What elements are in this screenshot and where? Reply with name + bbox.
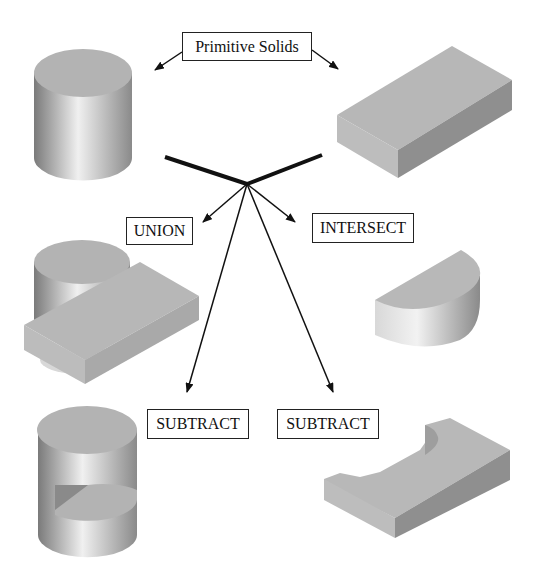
intersect-result <box>375 250 480 346</box>
subtract-label-right: SUBTRACT <box>277 409 379 439</box>
cylinder-primitive <box>34 49 132 180</box>
subtract-label-left: SUBTRACT <box>147 409 249 439</box>
union-label: UNION <box>126 217 193 245</box>
box-primitive <box>337 46 512 178</box>
intersect-label: INTERSECT <box>312 213 414 243</box>
boolean-operations-diagram <box>0 0 543 582</box>
primitive-solids-label: Primitive Solids <box>182 32 312 61</box>
union-result <box>24 240 199 384</box>
subtract-cylinder-result <box>37 406 137 557</box>
